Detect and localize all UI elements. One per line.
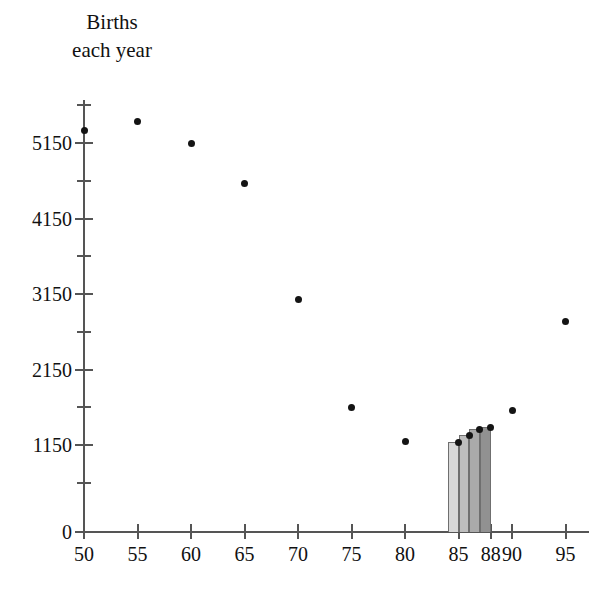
y-axis-minor-tick [77,255,91,257]
x-axis-tick-label: 60 [169,543,213,565]
y-axis-tick-label-wrap: 3150 [0,284,72,304]
x-axis-tick [404,524,406,539]
x-axis-tick [511,524,513,539]
x-axis-tick [565,524,567,539]
data-point [348,404,355,411]
y-axis-tick-label: 0 [2,522,72,542]
data-point [562,318,569,325]
data-point [81,127,88,134]
y-axis-tick-label-wrap: 4150 [0,209,72,229]
y-axis-tick [75,369,93,371]
y-axis-tick [75,218,93,220]
y-axis-tick-label-wrap: 1150 [0,435,72,455]
x-axis-tick-label: 80 [383,543,427,565]
y-axis-minor-tick [77,482,91,484]
bar [448,442,459,532]
x-axis-tick [83,524,85,539]
bar [459,435,470,532]
x-axis-tick-label: 75 [330,543,374,565]
y-axis-minor-tick [77,406,91,408]
data-point [188,140,195,147]
y-axis-line [83,100,85,534]
x-axis-tick [190,524,192,539]
y-axis-tick-label: 4150 [2,209,72,229]
x-axis-tick-label: 55 [116,543,160,565]
x-axis-tick-label: 65 [223,543,267,565]
y-axis-tick [75,293,93,295]
data-point [487,424,494,431]
data-point [455,439,462,446]
x-axis-tick [244,524,246,539]
y-axis-tick-label-wrap: 0 [0,522,72,542]
y-axis-tick-label: 5150 [2,133,72,153]
y-axis-tick-label-wrap: 5150 [0,133,72,153]
y-axis-tick [75,142,93,144]
y-axis-tick-label: 3150 [2,284,72,304]
data-point [134,118,141,125]
data-point [241,180,248,187]
y-axis-tick [75,444,93,446]
x-axis-tick-label: 50 [62,543,106,565]
data-point [295,296,302,303]
x-axis-tick-label: 95 [544,543,588,565]
x-axis-tick-label: 90 [490,543,534,565]
x-axis-tick-label: 70 [276,543,320,565]
y-axis-minor-tick [77,104,91,106]
plot-area: 011502150315041505150 505560657075808588… [0,0,596,589]
bar [480,427,491,532]
x-axis-tick [137,524,139,539]
y-axis-tick-label: 2150 [2,360,72,380]
bar [469,429,480,532]
y-axis-minor-tick [77,331,91,333]
y-axis-tick-label: 1150 [2,435,72,455]
x-axis-line [83,531,589,533]
data-point [402,438,409,445]
x-axis-tick [297,524,299,539]
data-point [509,407,516,414]
x-axis-tick [351,524,353,539]
y-axis-tick-label-wrap: 2150 [0,360,72,380]
chart-figure: Birthseach year 011502150315041505150 50… [0,0,596,589]
data-point [466,432,473,439]
y-axis-minor-tick [77,180,91,182]
